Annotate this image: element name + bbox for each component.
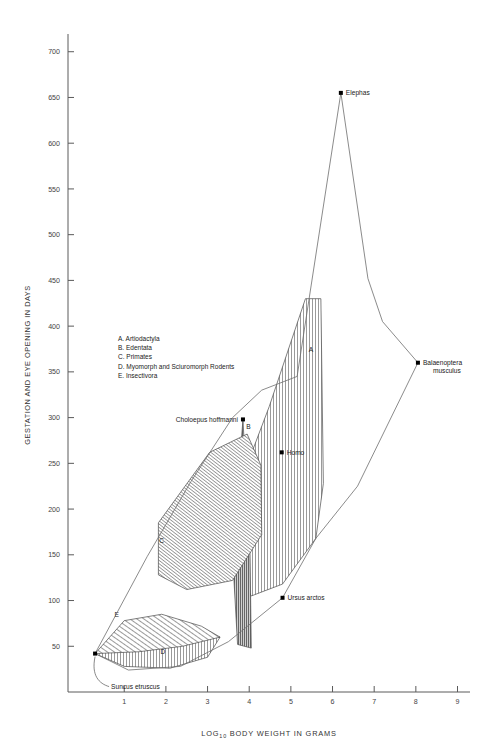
y-tick-label: 400 bbox=[48, 323, 60, 331]
y-tick-label: 600 bbox=[48, 140, 60, 148]
annotation-elephas: Elephas bbox=[346, 89, 371, 97]
y-tick-label: 200 bbox=[48, 506, 60, 514]
y-tick-label: 450 bbox=[48, 277, 60, 285]
annotation-balaenoptera-musculus: Balaenopteramusculus bbox=[423, 359, 463, 374]
legend: A. ArtiodactylaB. EdentataC. PrimatesD. … bbox=[118, 335, 235, 379]
x-tick-label: 1 bbox=[122, 698, 126, 706]
x-tick-label: 5 bbox=[289, 698, 293, 706]
y-tick-label: 500 bbox=[48, 231, 60, 239]
data-point-marker bbox=[339, 91, 343, 95]
annotation-choloepus-hoffmanni: Choloepus hoffmanni bbox=[176, 416, 239, 424]
y-tick-label: 300 bbox=[48, 414, 60, 422]
annotation-suncus-etruscus: Suncus etruscus bbox=[111, 683, 160, 690]
y-tick-label: 150 bbox=[48, 551, 60, 559]
y-tick-label: 650 bbox=[48, 94, 60, 102]
annotation-ursus-arctos: Ursus arctos bbox=[288, 594, 326, 601]
y-tick-label: 50 bbox=[52, 643, 60, 651]
legend-item-d: D. Myomorph and Sciuromorph Rodents bbox=[118, 363, 235, 371]
legend-item-a: A. Artiodactyla bbox=[118, 335, 160, 343]
region-label-c: C bbox=[159, 537, 164, 544]
region-label-b: B bbox=[246, 423, 251, 430]
y-tick-label: 250 bbox=[48, 460, 60, 468]
data-point-marker bbox=[93, 652, 97, 656]
x-axis-label: LOG10 BODY WEIGHT IN GRAMS bbox=[201, 729, 336, 739]
x-tick-label: 8 bbox=[414, 698, 418, 706]
annotation-homo: Homo bbox=[287, 449, 305, 456]
y-tick-label: 350 bbox=[48, 368, 60, 376]
figure-container: 5010015020025030035040045050055060065070… bbox=[0, 0, 486, 755]
x-tick-label: 4 bbox=[247, 698, 251, 706]
region-label-a: A bbox=[309, 346, 314, 353]
x-axis-label-rest: BODY WEIGHT IN GRAMS bbox=[227, 729, 337, 738]
y-tick-label: 100 bbox=[48, 597, 60, 605]
x-tick-label: 9 bbox=[456, 698, 460, 706]
y-tick-label: 700 bbox=[48, 48, 60, 56]
leader-line-suncus bbox=[94, 657, 109, 687]
x-axis-label-subscript: 10 bbox=[219, 733, 227, 739]
x-tick-label: 6 bbox=[331, 698, 335, 706]
legend-item-e: E. Insectivora bbox=[118, 372, 158, 379]
y-axis-label: GESTATION AND EYE OPENING IN DAYS bbox=[23, 285, 32, 444]
x-tick-label: 2 bbox=[164, 698, 168, 706]
legend-item-c: C. Primates bbox=[118, 353, 153, 360]
annotation-line-1: Balaenoptera bbox=[423, 359, 463, 367]
annotation-line-2: musculus bbox=[433, 367, 462, 374]
y-tick-label: 550 bbox=[48, 186, 60, 194]
x-axis-label-base: LOG bbox=[201, 729, 219, 738]
data-point-marker bbox=[281, 596, 285, 600]
x-tick-label: 3 bbox=[206, 698, 210, 706]
data-point-marker bbox=[280, 450, 284, 454]
data-point-marker bbox=[416, 361, 420, 365]
scatter-plot: 5010015020025030035040045050055060065070… bbox=[0, 0, 486, 755]
x-tick-label: 7 bbox=[372, 698, 376, 706]
data-point-marker bbox=[241, 417, 245, 421]
legend-item-b: B. Edentata bbox=[118, 344, 152, 351]
